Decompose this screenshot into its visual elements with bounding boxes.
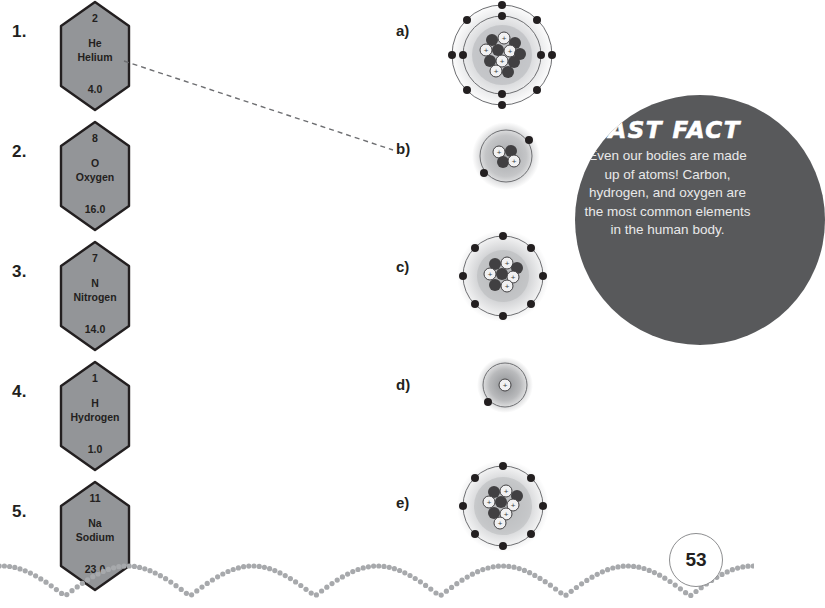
element-row: 4. 1 H Hydrogen 1.0 <box>0 360 200 480</box>
svg-text:+: + <box>508 47 513 56</box>
hexagon-shape <box>58 0 132 112</box>
option-label-a[interactable]: a) <box>396 22 409 39</box>
svg-text:+: + <box>488 270 493 279</box>
option-label-b[interactable]: b) <box>396 140 410 157</box>
fast-fact-title: FAST FACT <box>575 117 760 143</box>
svg-text:+: + <box>500 57 505 66</box>
decorative-dot-border <box>0 548 754 608</box>
question-number: 3. <box>12 262 27 282</box>
svg-text:+: + <box>504 510 509 519</box>
svg-text:+: + <box>511 273 516 282</box>
option-label-d[interactable]: d) <box>396 376 410 393</box>
svg-text:+: + <box>503 381 508 390</box>
svg-text:+: + <box>511 501 516 510</box>
svg-text:+: + <box>505 259 510 268</box>
svg-text:+: + <box>497 148 502 157</box>
atom-diagram-e[interactable]: +++ ++ <box>450 458 556 562</box>
svg-text:+: + <box>512 157 517 166</box>
question-number: 5. <box>12 502 27 522</box>
element-row: 1. 2 He Helium 4.0 <box>0 0 200 120</box>
question-number: 4. <box>12 382 27 402</box>
element-hexagon[interactable]: 8 O Oxygen 16.0 <box>58 120 132 232</box>
fast-fact-body: Even our bodies are made up of atoms! Ca… <box>575 147 760 240</box>
question-number: 1. <box>12 22 27 42</box>
atom-diagram-a[interactable]: +++ ++ <box>442 0 562 114</box>
hexagon-shape <box>58 240 132 352</box>
element-row: 3. 7 N Nitrogen 14.0 <box>0 240 200 360</box>
hexagon-shape <box>58 360 132 472</box>
question-number: 2. <box>12 142 27 162</box>
svg-text:+: + <box>504 487 509 496</box>
fast-fact-callout: FAST FACT Even our bodies are made up of… <box>575 95 825 345</box>
element-hexagon[interactable]: 2 He Helium 4.0 <box>58 0 132 112</box>
svg-text:+: + <box>502 34 507 43</box>
svg-text:+: + <box>505 282 510 291</box>
svg-text:+: + <box>487 498 492 507</box>
element-row: 2. 8 O Oxygen 16.0 <box>0 120 200 240</box>
atom-diagram-b[interactable]: ++ <box>466 118 546 202</box>
atom-diagram-c[interactable]: ++++ <box>450 228 556 332</box>
atom-diagram-d[interactable]: + <box>472 355 538 425</box>
fast-fact-content: FAST FACT Even our bodies are made up of… <box>575 117 760 240</box>
svg-text:+: + <box>494 67 499 76</box>
page-number: 53 <box>669 533 723 587</box>
element-hexagon[interactable]: 7 N Nitrogen 14.0 <box>58 240 132 352</box>
option-label-c[interactable]: c) <box>396 258 409 275</box>
element-hexagon[interactable]: 1 H Hydrogen 1.0 <box>58 360 132 472</box>
svg-text:+: + <box>498 519 503 528</box>
hexagon-shape <box>58 120 132 232</box>
svg-text:+: + <box>484 46 489 55</box>
option-label-e[interactable]: e) <box>396 494 409 511</box>
